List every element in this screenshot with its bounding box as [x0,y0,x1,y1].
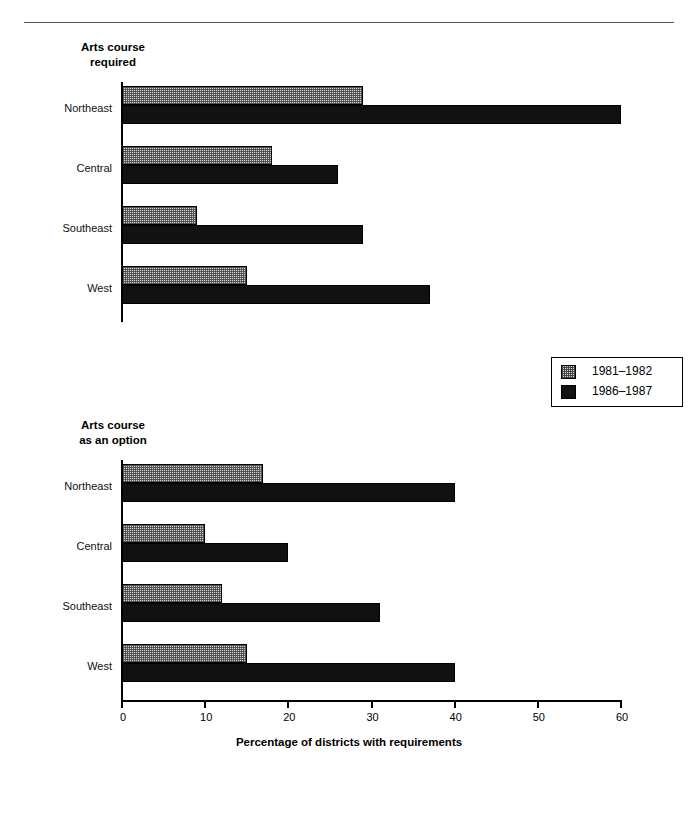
bar-northeast-1981-1982 [122,464,263,483]
x-tick-label-40: 40 [436,711,476,723]
x-tick-60 [620,700,622,708]
bar-southeast-1981-1982 [122,584,222,603]
bar-west-1981-1982 [122,266,247,285]
bar-southeast-1981-1982 [122,206,197,225]
bar-west-1981-1982 [122,644,247,663]
category-label-west: West [87,660,112,672]
x-tick-label-20: 20 [269,711,309,723]
category-label-southeast: Southeast [62,222,112,234]
bar-group-west: West [0,262,698,322]
x-tick-40 [454,700,456,708]
bar-group-southeast: Southeast [0,580,698,640]
panel-title-required: Arts course required [38,40,188,70]
category-label-northeast: Northeast [64,102,112,114]
x-tick-20 [287,700,289,708]
bar-group-northeast: Northeast [0,460,698,520]
chart-legend: 1981–1982 1986–1987 [551,357,683,407]
legend-swatch-solid-icon [561,385,576,399]
bar-northeast-1986-1987 [122,483,455,502]
x-axis-title: Percentage of districts with requirement… [0,736,698,748]
category-label-central: Central [77,162,112,174]
bar-group-southeast: Southeast [0,202,698,262]
bar-central-1981-1982 [122,524,205,543]
bar-group-central: Central [0,520,698,580]
bar-central-1986-1987 [122,165,338,184]
bar-central-1986-1987 [122,543,288,562]
x-tick-30 [371,700,373,708]
x-tick-label-30: 30 [353,711,393,723]
bar-northeast-1986-1987 [122,105,621,124]
plot-area-option: Northeast Central Southeast West [0,460,698,700]
header-divider [24,22,674,23]
category-label-southeast: Southeast [62,600,112,612]
category-label-central: Central [77,540,112,552]
category-label-west: West [87,282,112,294]
x-tick-label-10: 10 [186,711,226,723]
bar-group-west: West [0,640,698,700]
legend-label-1981-1982: 1981–1982 [592,364,652,378]
category-label-northeast: Northeast [64,480,112,492]
bar-group-central: Central [0,142,698,202]
plot-area-required: Northeast Central Southeast West [0,82,698,322]
x-tick-0 [121,700,123,708]
bar-southeast-1986-1987 [122,225,363,244]
panel-title-option: Arts course as an option [38,418,188,448]
x-tick-label-60: 60 [602,711,642,723]
x-tick-label-0: 0 [103,711,143,723]
legend-swatch-hatched-icon [561,365,576,379]
bar-northeast-1981-1982 [122,86,363,105]
bar-southeast-1986-1987 [122,603,380,622]
legend-label-1986-1987: 1986–1987 [592,384,652,398]
bar-west-1986-1987 [122,663,455,682]
x-tick-label-50: 50 [519,711,559,723]
x-tick-50 [537,700,539,708]
bar-central-1981-1982 [122,146,272,165]
bar-west-1986-1987 [122,285,430,304]
bar-group-northeast: Northeast [0,82,698,142]
x-tick-10 [204,700,206,708]
